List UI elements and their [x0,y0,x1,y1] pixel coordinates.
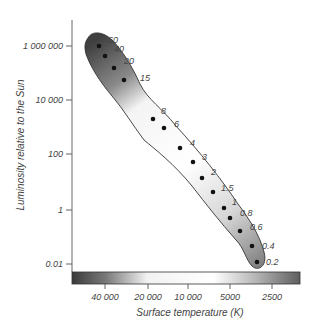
y-axis-title: Luminosity relative to the Sun [15,79,26,211]
x-tick-label: 2500 [261,292,282,302]
star-dot [162,126,167,131]
mass-label: 40 [114,44,124,54]
mass-label: 4 [190,138,195,148]
mass-label: 8 [161,106,166,116]
y-tick-label: 0.01 [45,259,63,269]
y-tick-label: 1 [58,205,63,215]
x-tick-label: 10 000 [174,292,202,302]
mass-label: 0.8 [240,208,253,218]
star-dot [178,146,183,151]
x-tick-label: 20 000 [133,292,162,302]
mass-label: 0.4 [262,241,275,251]
star-dot [151,117,156,122]
hr-diagram: 1 000 000 10 000 100 1 0.01 Luminosity r… [0,0,314,333]
y-tick-label: 1 000 000 [23,41,63,51]
star-dot [228,216,233,221]
star-dot [112,66,117,71]
star-dot [211,190,216,195]
mass-label: 15 [140,73,151,83]
x-axis-title: Surface temperature (K) [136,307,243,318]
y-tick-label: 100 [48,149,63,159]
star-dot [103,54,108,59]
star-dot [238,229,243,234]
y-ticks [66,46,72,264]
star-dot [255,260,260,265]
mass-label: 0.6 [250,222,263,232]
star-dot [97,44,102,49]
x-tick-label: 5000 [220,292,240,302]
star-dot [200,176,205,181]
mass-label: 6 [174,119,179,129]
mass-label: 3 [202,152,207,162]
x-tick-label: 40 000 [91,292,119,302]
star-dot [222,206,227,211]
x-ticks [105,284,272,289]
mass-label: 0.2 [266,257,279,267]
mass-label: 1 [232,197,237,207]
y-tick-label: 10 000 [35,95,63,105]
mass-label: 20 [123,56,134,66]
star-dot [122,78,127,83]
star-dot [191,160,196,165]
temperature-color-bar [72,272,300,284]
mass-label: 2 [210,167,216,177]
star-dot [250,244,255,249]
mass-label: 1.5 [221,183,235,193]
